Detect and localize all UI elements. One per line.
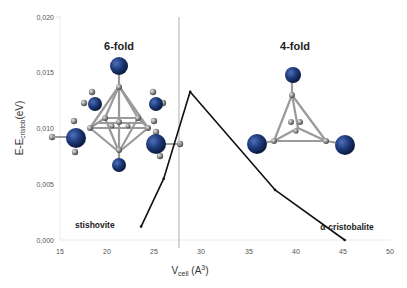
energy-line <box>141 92 345 240</box>
svg-text:25: 25 <box>150 248 158 255</box>
four-fold-label: 4-fold <box>280 40 310 52</box>
svg-text:15: 15 <box>56 248 64 255</box>
svg-text:0,015: 0,015 <box>36 69 54 76</box>
data-point <box>140 225 143 228</box>
svg-text:50: 50 <box>386 248 394 255</box>
svg-text:35: 35 <box>245 248 253 255</box>
data-point <box>189 90 192 93</box>
chart: 0,000 0,005 0,010 0,015 0,020 15 20 25 3… <box>0 0 407 288</box>
stishovite-label: stishovite <box>75 220 115 230</box>
six-fold-structure-illustration <box>49 57 183 172</box>
svg-text:0,005: 0,005 <box>36 181 54 188</box>
six-fold-label: 6-fold <box>104 40 134 52</box>
data-point <box>343 239 346 242</box>
x-tick-labels: 15 20 25 30 35 40 45 50 <box>56 248 394 255</box>
x-axis-title: Vcell (A3) <box>171 264 208 277</box>
svg-text:0,020: 0,020 <box>36 14 54 21</box>
four-fold-structure-illustration <box>247 67 355 155</box>
svg-text:20: 20 <box>103 248 111 255</box>
svg-text:45: 45 <box>339 248 347 255</box>
y-tick-labels: 0,000 0,005 0,010 0,015 0,020 <box>36 14 54 244</box>
svg-text:40: 40 <box>292 248 300 255</box>
y-axis-title: E-Ecristob(eV) <box>14 101 26 156</box>
data-point <box>162 177 165 180</box>
svg-text:0,000: 0,000 <box>36 237 54 244</box>
data-point <box>274 189 277 192</box>
cristobalite-label: α-cristobalite <box>320 222 374 232</box>
svg-text:30: 30 <box>197 248 205 255</box>
svg-text:0,010: 0,010 <box>36 125 54 132</box>
